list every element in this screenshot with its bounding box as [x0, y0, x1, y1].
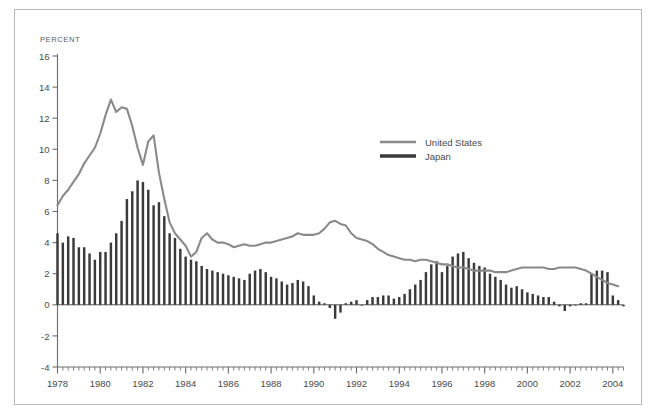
japan-bar	[435, 261, 437, 305]
japan-bar	[104, 252, 106, 305]
japan-bar	[548, 297, 550, 305]
japan-bar	[211, 271, 213, 305]
japan-bar	[158, 202, 160, 305]
x-axis-tick-label: 1992	[346, 378, 367, 389]
japan-bar	[478, 266, 480, 305]
japan-bar	[307, 286, 309, 305]
japan-bar	[451, 257, 453, 305]
x-axis-tick-label: 1988	[261, 378, 282, 389]
japan-bar	[398, 297, 400, 305]
x-axis-tick-label: 1998	[474, 378, 495, 389]
japan-bar	[195, 261, 197, 305]
japan-bar	[515, 286, 517, 305]
japan-bar	[72, 238, 74, 305]
japan-bar	[78, 247, 80, 305]
legend-label-japan: Japan	[425, 151, 451, 162]
y-axis-tick-label: 10	[39, 144, 50, 155]
japan-bar	[590, 274, 592, 305]
japan-bar	[168, 233, 170, 305]
japan-bar	[131, 191, 133, 305]
japan-bar	[152, 205, 154, 305]
legend-layer: United StatesJapan	[380, 137, 482, 162]
japan-bar	[238, 278, 240, 304]
japan-bar	[419, 280, 421, 305]
japan-bar	[110, 243, 112, 305]
japan-bars-layer	[56, 180, 624, 318]
japan-bar	[580, 303, 582, 305]
japan-bar	[302, 281, 304, 304]
japan-bar	[382, 295, 384, 304]
japan-bar	[281, 281, 283, 304]
x-axis-tick-label: 2000	[517, 378, 538, 389]
japan-bar	[441, 272, 443, 305]
x-axis-tick-label: 1984	[175, 378, 196, 389]
japan-bar	[200, 266, 202, 305]
japan-bar	[361, 305, 363, 306]
x-axis-tick-label: 2004	[602, 378, 623, 389]
x-axis-tick-label: 1978	[47, 378, 68, 389]
x-axis-tick-label: 2002	[560, 378, 581, 389]
x-axis-tick-label: 1986	[218, 378, 239, 389]
japan-bar	[537, 295, 539, 304]
japan-bar	[467, 258, 469, 305]
japan-bar	[291, 283, 293, 305]
y-axis-tick-label: 16	[39, 51, 50, 62]
japan-bar	[227, 275, 229, 305]
japan-bar	[232, 277, 234, 305]
x-axis-tick-label: 1996	[431, 378, 452, 389]
japan-bar	[521, 289, 523, 305]
japan-bar	[179, 249, 181, 305]
japan-bar	[622, 305, 624, 307]
japan-bar	[174, 238, 176, 305]
japan-bar	[88, 253, 90, 304]
japan-bar	[270, 277, 272, 305]
japan-bar	[190, 260, 192, 305]
legend-label-united-states: United States	[425, 137, 482, 148]
japan-bar	[553, 302, 555, 305]
y-axis-tick-label: -4	[41, 362, 49, 373]
japan-bar	[526, 292, 528, 304]
japan-bar	[94, 260, 96, 305]
japan-bar	[494, 277, 496, 305]
japan-bar	[585, 303, 587, 305]
y-axis-tick-label: 8	[44, 175, 49, 186]
y-axis-tick-label: 14	[39, 82, 50, 93]
japan-bar	[350, 302, 352, 305]
japan-bar	[345, 303, 347, 305]
y-axis-unit-label: PERCENT	[40, 35, 80, 44]
japan-bar	[617, 300, 619, 305]
inflation-comparison-chart: 1614121086420-2-419781980198219841986198…	[0, 0, 656, 415]
japan-bar	[387, 295, 389, 304]
japan-bar	[601, 271, 603, 305]
japan-bar	[532, 294, 534, 305]
japan-bar	[323, 303, 325, 305]
japan-bar	[542, 297, 544, 305]
japan-bar	[62, 243, 64, 305]
japan-bar	[313, 295, 315, 304]
japan-bar	[377, 297, 379, 305]
japan-bar	[558, 305, 560, 307]
japan-bar	[393, 299, 395, 305]
japan-bar	[275, 278, 277, 304]
japan-bar	[56, 233, 58, 305]
japan-bar	[83, 247, 85, 305]
japan-bar	[115, 233, 117, 305]
x-axis-tick-label: 1980	[90, 378, 111, 389]
japan-bar	[286, 285, 288, 305]
japan-bar	[612, 295, 614, 304]
japan-bar	[136, 180, 138, 304]
united-states-line	[58, 100, 619, 287]
japan-bar	[425, 272, 427, 305]
japan-bar	[371, 297, 373, 305]
japan-bar	[265, 272, 267, 305]
japan-bar	[99, 252, 101, 305]
japan-bar	[163, 216, 165, 305]
chart-figure: 1614121086420-2-419781980198219841986198…	[0, 0, 656, 415]
japan-bar	[457, 253, 459, 304]
japan-bar	[184, 257, 186, 305]
japan-bar	[409, 289, 411, 305]
japan-bar	[462, 252, 464, 305]
japan-bar	[366, 300, 368, 305]
japan-bar	[318, 302, 320, 305]
japan-bar	[414, 285, 416, 305]
